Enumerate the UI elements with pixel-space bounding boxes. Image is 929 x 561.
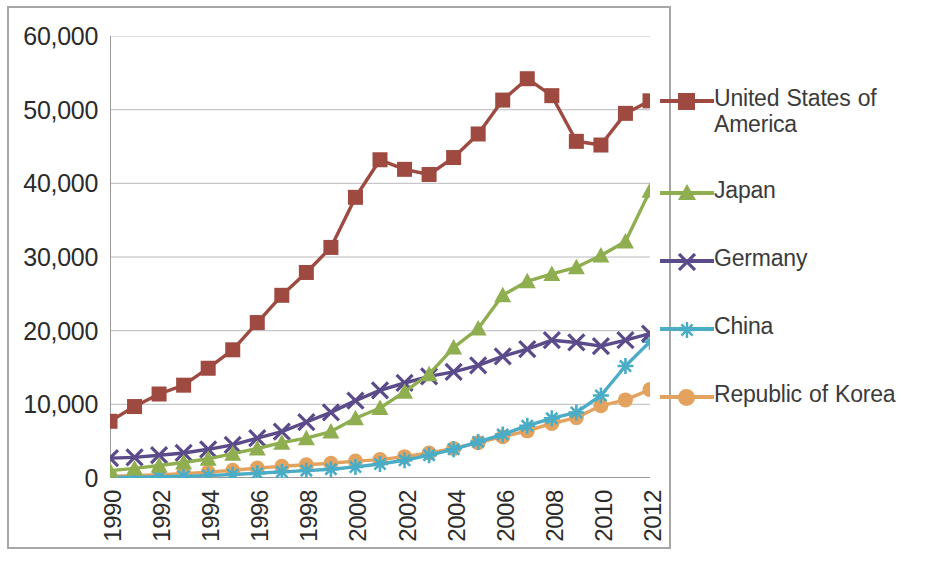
- legend-key-triangle-icon: [660, 180, 714, 206]
- y-axis-tick-label: 30,000: [23, 245, 98, 270]
- data-point-marker: [569, 134, 584, 149]
- data-point-marker: [642, 182, 651, 198]
- data-point-marker: [127, 399, 142, 414]
- series-germany: [110, 326, 650, 466]
- data-point-marker: [495, 427, 511, 443]
- series-line: [110, 334, 650, 459]
- legend-item-label: Republic of Korea: [714, 382, 895, 408]
- x-axis-tick-label: 2004: [445, 490, 469, 542]
- series-line: [110, 79, 650, 422]
- x-axis-tick-label: 2000: [346, 490, 370, 542]
- x-axis-tick-label: 2008: [543, 490, 567, 542]
- x-axis-tick-label: 2010: [592, 490, 616, 542]
- legend-item-republic-of-korea[interactable]: Republic of Korea: [660, 382, 925, 410]
- data-point-marker: [421, 447, 437, 463]
- data-point-marker: [373, 152, 388, 167]
- data-point-marker: [617, 233, 634, 249]
- legend-key-marker: [678, 184, 696, 200]
- data-point-marker: [495, 93, 510, 108]
- plot-svg: [110, 36, 650, 478]
- data-point-marker: [592, 247, 609, 263]
- x-axis-tick-label: 1992: [150, 490, 174, 542]
- data-point-marker: [152, 387, 167, 402]
- series-united-states-of-america: [110, 71, 650, 429]
- data-point-marker: [250, 315, 265, 330]
- legend-item-label: China: [714, 314, 773, 340]
- y-axis-tick-label: 10,000: [23, 392, 98, 417]
- data-point-marker: [471, 126, 486, 141]
- legend-key-star-icon: [660, 316, 714, 342]
- data-point-marker: [372, 456, 388, 472]
- x-axis-tick-label: 1990: [101, 490, 125, 542]
- legend-item-germany[interactable]: Germany: [660, 246, 925, 274]
- legend-item-label: Germany: [714, 246, 807, 272]
- legend-key-marker: [678, 93, 695, 110]
- legend-key-square-icon: [660, 88, 714, 114]
- data-point-marker: [519, 418, 535, 434]
- data-point-marker: [298, 414, 314, 430]
- y-axis: 60,00050,00040,00030,00020,00010,0000: [14, 0, 106, 561]
- data-point-marker: [274, 288, 289, 303]
- legend-key-x-icon: [660, 248, 714, 274]
- line-chart: 60,00050,00040,00030,00020,00010,0000 19…: [0, 0, 929, 561]
- data-point-marker: [593, 138, 608, 153]
- legend-key-circle-icon: [660, 384, 714, 410]
- x-axis-tick-label: 2002: [396, 490, 420, 542]
- data-point-marker: [568, 259, 585, 275]
- x-axis-tick-label: 1996: [248, 490, 272, 542]
- x-axis-tick-label: 1998: [297, 490, 321, 542]
- data-point-marker: [225, 342, 240, 357]
- y-axis-tick-label: 40,000: [23, 171, 98, 196]
- y-axis-tick-label: 50,000: [23, 97, 98, 122]
- data-point-marker: [520, 71, 535, 86]
- data-point-marker: [176, 378, 191, 393]
- legend-item-united-states-of-america[interactable]: United States of America: [660, 86, 925, 138]
- data-point-marker: [201, 361, 216, 376]
- data-point-marker: [348, 190, 363, 205]
- data-point-marker: [618, 106, 633, 121]
- data-point-marker: [322, 423, 339, 439]
- data-point-marker: [323, 240, 338, 255]
- y-axis-tick-label: 0: [84, 466, 98, 491]
- x-axis-tick-label: 2006: [494, 490, 518, 542]
- x-axis: 1990199219941996199820002002200420062008…: [110, 478, 650, 561]
- x-axis-tick-label: 1994: [199, 490, 223, 542]
- data-point-marker: [372, 400, 389, 416]
- data-point-marker: [544, 410, 560, 426]
- data-point-marker: [323, 404, 339, 420]
- data-point-marker: [470, 434, 486, 450]
- legend-item-japan[interactable]: Japan: [660, 178, 925, 206]
- x-axis-tick-label: 2012: [641, 490, 665, 542]
- data-point-marker: [494, 287, 511, 303]
- data-point-marker: [544, 88, 559, 103]
- data-point-marker: [618, 392, 633, 407]
- data-point-marker: [422, 167, 437, 182]
- data-point-marker: [446, 150, 461, 165]
- y-axis-tick-label: 20,000: [23, 318, 98, 343]
- legend-key-marker: [678, 321, 695, 338]
- data-point-marker: [617, 358, 633, 374]
- series-japan: [110, 182, 650, 477]
- data-point-marker: [347, 393, 363, 409]
- data-point-marker: [397, 162, 412, 177]
- data-point-marker: [643, 382, 651, 397]
- plot-area: [110, 36, 650, 478]
- legend-item-label: United States of America: [714, 86, 925, 138]
- y-axis-tick-label: 60,000: [23, 24, 98, 49]
- data-point-marker: [110, 414, 118, 429]
- data-point-marker: [299, 265, 314, 280]
- legend-key-marker: [678, 253, 695, 270]
- legend-key-marker: [678, 389, 695, 406]
- legend-item-label: Japan: [714, 178, 776, 204]
- data-point-marker: [643, 93, 651, 108]
- legend-item-china[interactable]: China: [660, 314, 925, 342]
